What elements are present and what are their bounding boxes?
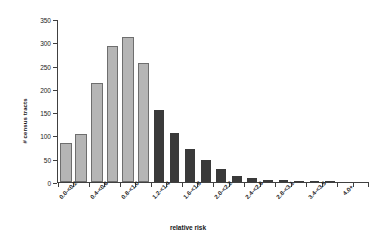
y-tick-label: 200 — [40, 86, 51, 93]
bar-slot — [353, 20, 369, 182]
x-label-slot: 3.4-<3.5 — [307, 188, 323, 222]
bar — [232, 176, 242, 182]
y-tick-label: 300 — [40, 40, 51, 47]
x-label-slot — [105, 188, 121, 222]
bar — [247, 178, 257, 182]
bar — [263, 180, 273, 182]
x-label-slot — [198, 188, 214, 222]
bar-slot — [291, 20, 307, 182]
bar-slot — [182, 20, 198, 182]
x-label-slot — [74, 188, 90, 222]
histogram-chart: # census tracts 050100150200250300350 0.… — [0, 0, 376, 242]
bar — [107, 46, 119, 182]
bar — [325, 181, 335, 182]
bar — [201, 160, 211, 182]
bar-slot — [198, 20, 214, 182]
y-axis-title: # census tracts — [22, 98, 28, 143]
bar-slot — [338, 20, 354, 182]
x-label-slot — [136, 188, 152, 222]
bar — [279, 180, 289, 182]
x-label-slot: 0.8-<1.0 — [120, 188, 136, 222]
x-axis-tick-labels: 0.0-<0.20.4-<0.60.8-<1.01.2-<1.41.6-<1.8… — [58, 188, 369, 222]
bar-slot — [229, 20, 245, 182]
bar-slot — [276, 20, 292, 182]
y-tick — [53, 160, 57, 161]
x-label-slot: 0.0-<0.2 — [58, 188, 74, 222]
x-label-slot: 2.8-<3.1 — [276, 188, 292, 222]
bar — [75, 134, 87, 182]
bar — [216, 169, 226, 182]
x-label-slot — [353, 188, 369, 222]
bar-slot — [105, 20, 121, 182]
x-label-slot — [322, 188, 338, 222]
bar — [310, 181, 320, 182]
x-label-slot: 0.4-<0.6 — [89, 188, 105, 222]
bar-series — [58, 20, 369, 182]
y-tick-label: 250 — [40, 63, 51, 70]
x-label-slot — [167, 188, 183, 222]
bar-slot — [151, 20, 167, 182]
bar-slot — [260, 20, 276, 182]
y-tick — [53, 136, 57, 137]
x-axis-title: relative risk — [0, 224, 376, 231]
bar — [154, 110, 164, 182]
y-tick — [53, 113, 57, 114]
bar-slot — [167, 20, 183, 182]
y-tick — [53, 90, 57, 91]
bar-slot — [322, 20, 338, 182]
x-label-slot: 1.2-<1.4 — [151, 188, 167, 222]
x-label-slot: 1.6-<1.8 — [182, 188, 198, 222]
bar — [185, 149, 195, 182]
x-label-slot: 4.0+ — [338, 188, 354, 222]
y-tick-label: 150 — [40, 110, 51, 117]
plot-area: 050100150200250300350 0.0-<0.20.4-<0.60.… — [57, 20, 369, 183]
bar-slot — [307, 20, 323, 182]
bar — [170, 133, 180, 182]
bar-slot — [74, 20, 90, 182]
bar-slot — [89, 20, 105, 182]
x-label-slot — [260, 188, 276, 222]
y-tick-label: 0 — [47, 180, 51, 187]
bar-slot — [120, 20, 136, 182]
x-label-slot: 2.4-<2.6 — [245, 188, 261, 222]
y-tick-label: 100 — [40, 133, 51, 140]
x-tick — [353, 183, 369, 187]
y-tick — [53, 20, 57, 21]
x-label-slot: 2.0-<2.2 — [213, 188, 229, 222]
bar-slot — [213, 20, 229, 182]
x-label-slot — [291, 188, 307, 222]
bar — [122, 37, 134, 182]
bar — [60, 143, 72, 182]
y-tick — [53, 43, 57, 44]
bar-slot — [136, 20, 152, 182]
y-tick — [53, 67, 57, 68]
y-tick-label: 350 — [40, 17, 51, 24]
bar-slot — [58, 20, 74, 182]
bar — [294, 181, 304, 182]
bar — [91, 83, 103, 182]
bar-slot — [245, 20, 261, 182]
bar — [138, 63, 150, 182]
x-label-slot — [229, 188, 245, 222]
y-tick — [53, 183, 57, 184]
y-tick-label: 50 — [44, 156, 51, 163]
